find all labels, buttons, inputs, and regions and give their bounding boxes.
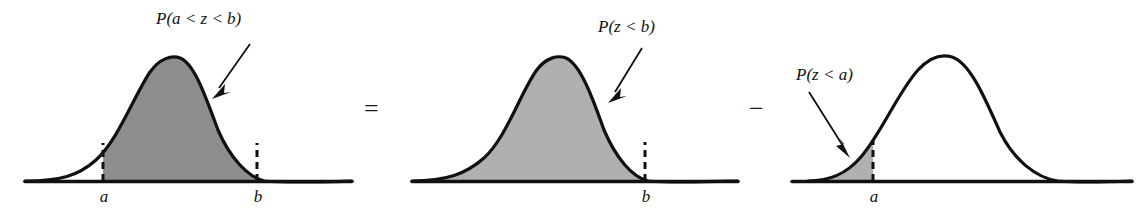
pointer-arrow-head [212, 84, 231, 99]
normal-distribution-identity-figure: P(a < z < b) a b = P(z < b) b [0, 0, 1143, 213]
shaded-region-left-of-b [412, 57, 648, 181]
panel-right: P(z < a) a [780, 0, 1143, 213]
pointer-arrow-line [615, 48, 642, 92]
pointer-arrow-line [219, 44, 250, 88]
axis-tick-label-a: a [94, 188, 114, 205]
axis-tick-label-b: b [248, 188, 268, 205]
equals-operator: = [364, 96, 379, 122]
pointer-arrow-head [608, 88, 627, 103]
panel-left: P(a < z < b) a b [0, 0, 360, 213]
probability-label-left: P(a < z < b) [156, 10, 241, 27]
probability-label-right: P(z < a) [796, 66, 853, 83]
pointer-arrow-head [836, 138, 850, 158]
pointer-arrow-line [809, 92, 843, 146]
panel-middle: P(z < b) b [380, 0, 740, 213]
normal-curve [808, 56, 1132, 182]
minus-operator: − [749, 96, 764, 122]
axis-tick-label-a: a [864, 188, 884, 205]
probability-label-middle: P(z < b) [598, 18, 655, 35]
axis-tick-label-b: b [636, 188, 656, 205]
